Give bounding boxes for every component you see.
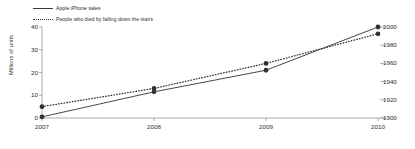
data-point-marker <box>40 114 45 119</box>
data-point-marker <box>264 68 269 73</box>
chart-plot-area <box>0 0 415 149</box>
chart-container: Apple iPhone sales People who died by fa… <box>0 0 415 149</box>
series-line-1 <box>42 34 378 107</box>
data-point-marker <box>376 31 381 36</box>
data-point-marker <box>40 104 45 109</box>
axis-lines <box>39 27 386 121</box>
data-point-marker <box>376 25 381 30</box>
data-point-marker <box>152 86 157 91</box>
data-point-marker <box>264 61 269 66</box>
series-markers <box>40 25 381 120</box>
series-lines <box>42 27 378 117</box>
series-line-0 <box>42 27 378 117</box>
